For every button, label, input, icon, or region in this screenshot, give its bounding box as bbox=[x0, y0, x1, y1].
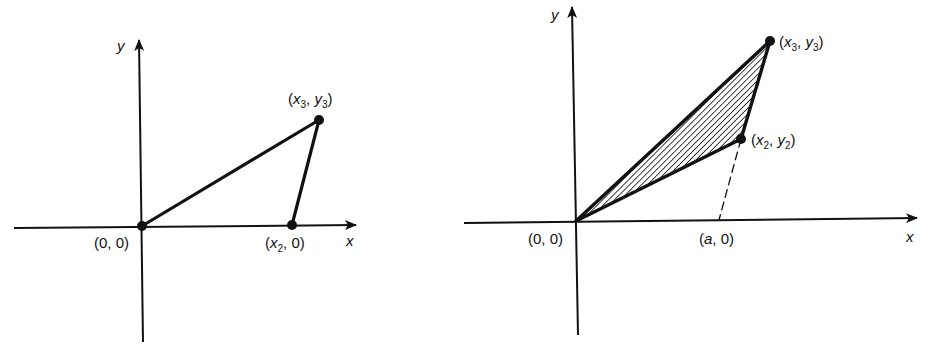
left-triangle bbox=[142, 120, 319, 226]
right-y-axis-label: y bbox=[550, 6, 560, 23]
left-x-axis-label: x bbox=[345, 232, 354, 249]
left-p3-point bbox=[314, 115, 324, 125]
left-p3-label: (x3, y3) bbox=[288, 90, 332, 110]
left-p2-point bbox=[287, 220, 297, 230]
right-dashed-line bbox=[719, 139, 741, 220]
left-panel: x y (0, 0) (x2, 0) (x3, y3) bbox=[14, 37, 356, 342]
left-origin-label: (0, 0) bbox=[94, 234, 129, 251]
right-panel: x y (0, 0) (x3, y3) (x2, y2) (a, 0) bbox=[464, 6, 917, 335]
right-p2-point bbox=[736, 134, 746, 144]
right-p3-point bbox=[765, 36, 775, 46]
right-x-axis-label: x bbox=[905, 228, 914, 245]
left-origin-point bbox=[137, 221, 147, 231]
right-p2-label: (x2, y2) bbox=[751, 131, 795, 151]
left-p2-label: (x2, 0) bbox=[265, 234, 305, 254]
right-a-label: (a, 0) bbox=[699, 230, 734, 247]
right-origin-label: (0, 0) bbox=[528, 230, 563, 247]
right-hatched-triangle bbox=[576, 41, 770, 221]
left-y-axis-label: y bbox=[116, 37, 126, 54]
left-y-axis bbox=[139, 40, 143, 342]
right-x-axis bbox=[464, 218, 917, 223]
left-x-axis bbox=[14, 225, 356, 228]
figure-canvas: x y (0, 0) (x2, 0) (x3, y3) x y ( bbox=[0, 0, 928, 353]
right-y-axis bbox=[572, 7, 578, 335]
right-p3-label: (x3, y3) bbox=[779, 33, 823, 53]
